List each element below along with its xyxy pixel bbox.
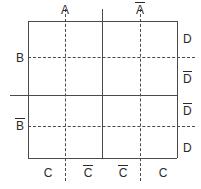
label-right-d-bar-3: D <box>183 105 199 117</box>
label-right-d-4: D <box>183 142 199 154</box>
divider-dashed-horizontal-d-upper <box>28 57 195 58</box>
divider-vertical-a-boundary <box>102 9 103 158</box>
map-border-bottom <box>28 158 177 159</box>
label-top-a-bar-text: A <box>136 4 144 16</box>
label-right-d-bar-2-text: D <box>183 73 192 85</box>
map-border-left <box>28 21 29 158</box>
label-bottom-c-bar-3: C <box>113 167 133 179</box>
map-border-right <box>177 21 178 158</box>
label-bottom-c-bar-2-text: C <box>84 167 93 179</box>
divider-dashed-horizontal-d-lower <box>28 126 195 127</box>
label-top-a: A <box>55 4 75 16</box>
label-bottom-c-bar-2: C <box>78 167 98 179</box>
divider-horizontal-b-boundary <box>10 95 177 96</box>
label-left-b: B <box>8 52 24 64</box>
label-right-d-4-text: D <box>183 142 192 154</box>
label-top-a-bar: A <box>130 4 150 16</box>
label-bottom-c-4: C <box>153 167 173 179</box>
label-right-d-bar-3-text: D <box>183 105 192 117</box>
label-right-d-1-text: D <box>183 33 192 45</box>
label-bottom-c-1: C <box>38 167 58 179</box>
label-right-d-bar-2: D <box>183 73 199 85</box>
label-right-d-1: D <box>183 33 199 45</box>
divider-dashed-vertical-c-right <box>140 9 141 181</box>
label-bottom-c-bar-3-text: C <box>119 167 128 179</box>
label-top-a-text: A <box>61 4 69 16</box>
label-left-b-bar: B <box>8 120 24 132</box>
karnaugh-map-diagram: A A C C C C B B D D D D <box>0 0 201 189</box>
label-left-b-text: B <box>16 52 24 64</box>
label-bottom-c-4-text: C <box>159 167 168 179</box>
label-bottom-c-1-text: C <box>44 167 53 179</box>
divider-dashed-vertical-c-left <box>65 9 66 181</box>
label-left-b-bar-text: B <box>16 120 24 132</box>
